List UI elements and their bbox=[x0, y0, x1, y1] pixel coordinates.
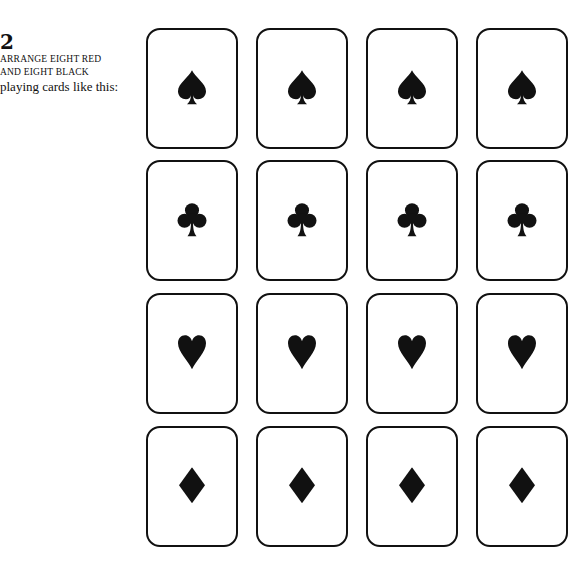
playing-card-club bbox=[366, 160, 458, 281]
heart-icon bbox=[177, 334, 207, 370]
playing-card-heart bbox=[256, 293, 348, 414]
diamond-icon bbox=[177, 467, 207, 503]
playing-card-spade bbox=[146, 28, 238, 149]
instruction-line-1: ARRANGE EIGHT RED bbox=[0, 53, 140, 66]
club-icon bbox=[287, 201, 317, 237]
playing-card-heart bbox=[146, 293, 238, 414]
spade-icon bbox=[397, 69, 427, 105]
heart-icon bbox=[287, 334, 317, 370]
club-icon bbox=[397, 201, 427, 237]
spade-icon bbox=[287, 69, 317, 105]
playing-card-diamond bbox=[146, 426, 238, 547]
playing-card-club bbox=[256, 160, 348, 281]
club-icon bbox=[507, 201, 537, 237]
spade-icon bbox=[177, 69, 207, 105]
instruction-caption: 2 ARRANGE EIGHT RED AND EIGHT BLACK play… bbox=[0, 33, 140, 94]
instruction-line-2: AND EIGHT BLACK bbox=[0, 66, 140, 79]
diamond-icon bbox=[287, 467, 317, 503]
playing-card-club bbox=[146, 160, 238, 281]
playing-card-diamond bbox=[476, 426, 568, 547]
club-icon bbox=[177, 201, 207, 237]
playing-card-spade bbox=[256, 28, 348, 149]
heart-icon bbox=[507, 334, 537, 370]
playing-card-spade bbox=[476, 28, 568, 149]
playing-card-diamond bbox=[366, 426, 458, 547]
instruction-line-3: playing cards like this: bbox=[0, 79, 140, 94]
heart-icon bbox=[397, 334, 427, 370]
playing-card-diamond bbox=[256, 426, 348, 547]
diamond-icon bbox=[507, 467, 537, 503]
step-number: 2 bbox=[0, 33, 140, 51]
spade-icon bbox=[507, 69, 537, 105]
playing-card-heart bbox=[366, 293, 458, 414]
diamond-icon bbox=[397, 467, 427, 503]
playing-card-club bbox=[476, 160, 568, 281]
playing-card-spade bbox=[366, 28, 458, 149]
playing-card-heart bbox=[476, 293, 568, 414]
